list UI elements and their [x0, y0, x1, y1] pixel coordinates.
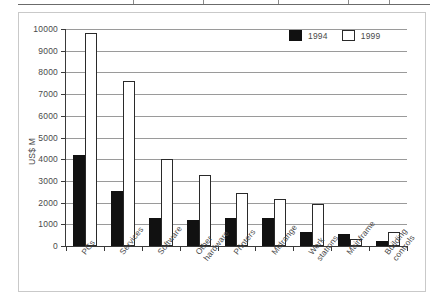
bar-group: [331, 29, 369, 246]
y-tick-label: 9000: [38, 46, 58, 56]
y-tick-label: 7000: [38, 89, 58, 99]
legend-item-1994[interactable]: 1994: [289, 30, 328, 41]
y-tick-label: 2000: [38, 198, 58, 208]
bar-1994-other-hardware: [187, 220, 199, 246]
legend-label-1994: 1994: [308, 31, 328, 41]
bar-1994-services: [111, 191, 123, 246]
y-tick-label: 3000: [38, 176, 58, 186]
bar-1999-services: [123, 81, 135, 246]
plot-area: 0100020003000400050006000700080009000100…: [65, 29, 407, 247]
bar-group: [66, 29, 104, 246]
y-tick-label: 6000: [38, 111, 58, 121]
y-axis-title: US$ M: [27, 138, 37, 165]
bar-1994-software: [149, 218, 161, 246]
y-tick-label: 10000: [33, 24, 58, 34]
y-tick-label: 4000: [38, 154, 58, 164]
bar-group: [142, 29, 180, 246]
bar-group: [293, 29, 331, 246]
x-axis-labels: PCsServicesSoftwareOtherhardwarePrinters…: [65, 249, 407, 300]
bar-1994-work-stations: [300, 232, 312, 246]
bars-layer: [66, 29, 407, 246]
bar-group: [369, 29, 407, 246]
y-tick-label: 1000: [38, 219, 58, 229]
bar-group: [104, 29, 142, 246]
bar-1994-midrange: [262, 218, 274, 246]
legend-swatch-1994: [289, 30, 302, 41]
table-column-separator: [203, 0, 204, 4]
bar-group: [218, 29, 256, 246]
legend-item-1999[interactable]: 1999: [342, 30, 381, 41]
bar-group: [255, 29, 293, 246]
y-tick-label: 8000: [38, 67, 58, 77]
table-column-separator: [348, 0, 349, 4]
bar-1994-pcs: [73, 155, 85, 246]
chart-figure-frame: US$ M 0100020003000400050006000700080009…: [18, 12, 426, 292]
bar-group: [180, 29, 218, 246]
legend-swatch-1999: [342, 30, 355, 41]
table-column-separator: [278, 0, 279, 4]
table-column-separator: [389, 0, 390, 4]
bar-1999-pcs: [85, 33, 97, 246]
y-tick-label: 0: [53, 241, 58, 251]
chart-legend: 19941999: [285, 28, 384, 43]
y-tick-label: 5000: [38, 133, 58, 143]
bar-1994-mainframe: [338, 234, 350, 246]
legend-label-1999: 1999: [361, 31, 381, 41]
table-bottom-edge: [18, 0, 430, 5]
table-column-separator: [133, 0, 134, 4]
